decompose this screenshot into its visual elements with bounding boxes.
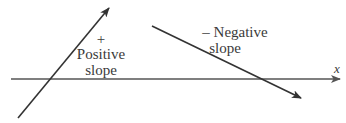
negative-label: – Negative (190, 24, 280, 40)
negative-slope-label: slope (195, 40, 255, 56)
positive-label: Positive (71, 46, 131, 62)
positive-sign: + (76, 31, 126, 47)
x-axis-label: x (330, 61, 344, 77)
positive-slope-label: slope (71, 62, 131, 78)
slope-diagram (0, 0, 346, 123)
